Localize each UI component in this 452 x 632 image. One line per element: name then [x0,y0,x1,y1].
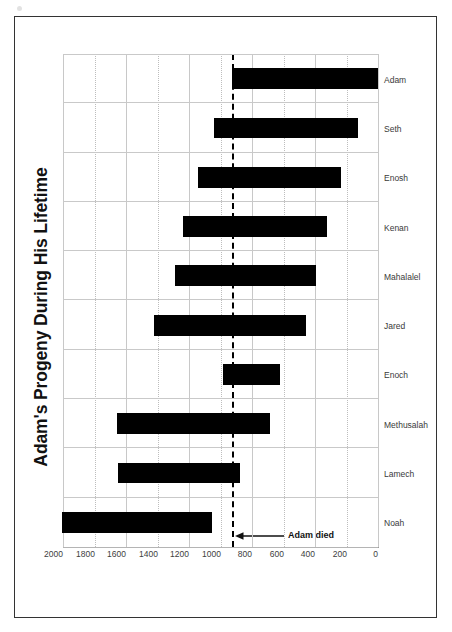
bar-adam[interactable] [231,68,377,89]
bar-lamech[interactable] [117,463,239,484]
category-label-kenan: Kenan [384,223,409,233]
category-label-jared: Jared [384,321,405,331]
value-tick-label-1600: 1600 [107,549,126,559]
category-label-noah: Noah [384,518,404,528]
gridline-2000 [63,54,64,547]
value-tick-label-2000: 2000 [44,549,63,559]
value-tick-label-1400: 1400 [138,549,157,559]
category-separator-8 [63,152,378,153]
category-label-lamech: Lamech [384,469,414,479]
category-label-seth: Seth [384,124,402,134]
value-tick-label-1800: 1800 [75,549,94,559]
bar-enoch[interactable] [222,364,279,385]
category-separator-5 [63,300,378,301]
scan-artifact-speck [17,6,22,11]
rotated-chart-container: Adam's Progeny During His Lifetime Adam … [27,30,425,604]
category-separator-4 [63,349,378,350]
bar-methusalah[interactable] [117,413,270,434]
category-separator-9 [63,102,378,103]
category-label-mahalalel: Mahalalel [384,272,420,282]
value-tick-label-400: 400 [300,549,314,559]
category-label-adam: Adam [384,75,406,85]
up-arrow-icon [233,528,285,544]
value-tick-label-1200: 1200 [170,549,189,559]
bar-kenan[interactable] [183,216,326,237]
chart-title: Adam's Progeny During His Lifetime [31,30,52,604]
plot-area: Adam died 020040060080010001200140016001… [63,54,379,548]
adam-died-label: Adam died [287,530,333,540]
plot-right-edge [63,54,378,55]
category-separator-7 [63,201,378,202]
value-tick-label-200: 200 [332,549,346,559]
category-label-enosh: Enosh [384,173,408,183]
category-separator-6 [63,250,378,251]
bar-noah[interactable] [62,512,212,533]
figure-frame: Adam's Progeny During His Lifetime Adam … [14,16,437,618]
category-label-enoch: Enoch [384,370,408,380]
bar-jared[interactable] [154,315,306,336]
category-separator-3 [63,398,378,399]
gridline-1800 [94,54,95,547]
bar-enosh[interactable] [198,167,341,188]
value-tick-label-800: 800 [237,549,251,559]
bar-seth[interactable] [213,118,357,139]
category-separator-2 [63,447,378,448]
value-tick-label-0: 0 [373,549,378,559]
value-tick-label-600: 600 [269,549,283,559]
value-tick-label-1000: 1000 [201,549,220,559]
category-separator-1 [63,497,378,498]
category-label-methusalah: Methusalah [384,420,428,430]
bar-mahalalel[interactable] [174,266,315,287]
gridline-0 [378,54,379,547]
